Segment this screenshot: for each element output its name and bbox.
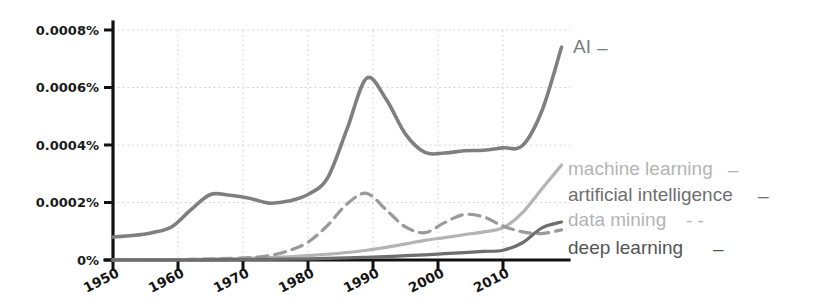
legend-item-deep-learning[interactable]: deep learning– <box>568 237 724 259</box>
series-lines <box>113 47 562 260</box>
legend-label: artificial intelligence <box>568 184 733 205</box>
y-tick-label: 0.0008% <box>36 23 99 38</box>
y-tick-label: 0.0004% <box>36 138 99 153</box>
x-tick-label: 2010 <box>471 264 512 295</box>
series-line-AI <box>113 47 562 237</box>
x-tick-label: 1960 <box>146 264 187 295</box>
legend-item-artificial-intelligence[interactable]: artificial intelligence– <box>568 184 769 206</box>
ngram-chart: 0.0008%0.0006%0.0004%0.0002%0% 195019601… <box>0 0 821 308</box>
x-tick-label: 1980 <box>276 264 317 295</box>
legend-label: deep learning <box>568 237 683 258</box>
legend-label: data mining <box>568 209 666 230</box>
series-annotations: AI– <box>573 36 608 58</box>
legend-label: machine learning <box>568 158 713 179</box>
x-tick-label: 1990 <box>341 264 382 295</box>
y-tick-label: 0.0006% <box>36 80 99 95</box>
y-tick-label: 0% <box>77 253 99 268</box>
legend-item-machine-learning[interactable]: machine learning– <box>568 158 739 180</box>
legend: machine learning–artificial intelligence… <box>568 158 769 259</box>
legend-line-swatch-icon: – <box>758 185 769 206</box>
x-tick-label: 1950 <box>81 264 122 295</box>
legend-item-data-mining[interactable]: data mining- - <box>568 209 704 231</box>
x-tick-label: 1970 <box>211 264 252 295</box>
y-tick-label: 0.0002% <box>36 195 99 210</box>
legend-line-swatch-icon: - - <box>686 210 704 231</box>
x-axis-labels: 1950196019701980199020002010 <box>81 264 512 295</box>
annotation-ai-dash-icon: – <box>597 37 608 58</box>
legend-line-swatch-icon: – <box>713 238 724 259</box>
annotation-ai-label: AI <box>573 36 591 57</box>
x-tick-label: 2000 <box>406 264 447 295</box>
y-axis-labels: 0.0008%0.0006%0.0004%0.0002%0% <box>36 23 99 268</box>
legend-line-swatch-icon: – <box>728 159 739 180</box>
chart-canvas: 0.0008%0.0006%0.0004%0.0002%0% 195019601… <box>0 0 821 308</box>
